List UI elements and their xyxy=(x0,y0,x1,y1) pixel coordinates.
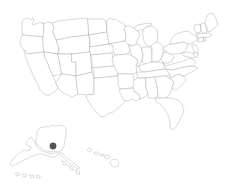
us-map-container xyxy=(0,0,232,189)
state-massachusetts[interactable] xyxy=(197,33,212,38)
state-kansas[interactable] xyxy=(91,53,114,68)
state-minnesota[interactable] xyxy=(107,18,126,44)
state-rhode-island[interactable] xyxy=(204,38,206,41)
alaska-island-a[interactable] xyxy=(16,173,20,176)
state-florida[interactable] xyxy=(156,98,184,130)
alaska-marker[interactable] xyxy=(50,143,56,149)
alaska-island-e[interactable] xyxy=(62,161,67,165)
hawaii-island-molokai[interactable] xyxy=(101,154,104,156)
alaska-island-f[interactable] xyxy=(69,166,74,170)
alaska-island-b[interactable] xyxy=(23,174,27,177)
state-new-york[interactable] xyxy=(170,31,198,44)
hawaii-island-hawaii[interactable] xyxy=(110,159,119,167)
state-vermont[interactable] xyxy=(194,24,201,33)
contiguous-states-group xyxy=(20,13,218,130)
us-map-svg xyxy=(0,0,232,189)
state-oregon[interactable] xyxy=(20,35,44,54)
hawaii-island-kauai[interactable] xyxy=(88,148,92,152)
alaska-island-d[interactable] xyxy=(37,175,40,178)
alaska-island-g[interactable] xyxy=(76,170,80,174)
alaska-island-c[interactable] xyxy=(30,175,34,178)
state-arizona[interactable] xyxy=(56,74,78,97)
alaska-inset-group xyxy=(10,125,80,178)
state-washington[interactable] xyxy=(22,18,44,37)
hawaii-island-maui[interactable] xyxy=(105,155,110,159)
state-new-mexico[interactable] xyxy=(76,72,94,95)
state-indiana[interactable] xyxy=(142,47,152,64)
markers-group xyxy=(50,143,56,149)
hawaii-inset-group xyxy=(88,148,119,167)
hawaii-island-oahu[interactable] xyxy=(94,152,99,155)
state-alaska[interactable] xyxy=(10,125,66,166)
